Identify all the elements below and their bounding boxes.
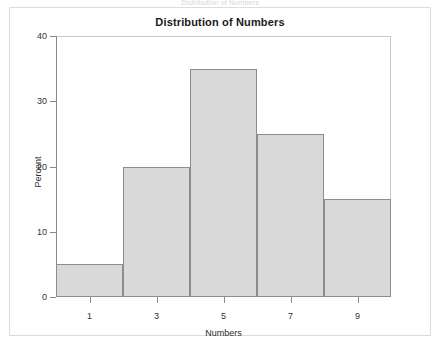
- y-tick-label-0: 0: [42, 292, 47, 302]
- x-tick-label-7: 7: [288, 311, 293, 321]
- chart-frame: Distribution of Numbers Percent 40 30 20…: [9, 7, 431, 336]
- x-axis-title: Numbers: [56, 328, 391, 338]
- y-tick-label-10: 10: [37, 227, 47, 237]
- y-axis-line: [56, 36, 57, 297]
- chart-title: Distribution of Numbers: [10, 16, 430, 28]
- bar-3: [123, 167, 190, 298]
- x-tick-label-5: 5: [221, 311, 226, 321]
- cut-off-header-text: Distribution of Numbers: [0, 0, 440, 6]
- x-tick-label-9: 9: [355, 311, 360, 321]
- x-tick-9: [358, 297, 359, 303]
- y-tick-40: [50, 36, 56, 37]
- x-tick-label-1: 1: [87, 311, 92, 321]
- bar-9: [324, 199, 391, 297]
- y-tick-10: [50, 232, 56, 233]
- y-tick-label-30: 30: [37, 96, 47, 106]
- x-tick-3: [157, 297, 158, 303]
- x-tick-label-3: 3: [154, 311, 159, 321]
- x-tick-7: [291, 297, 292, 303]
- y-tick-30: [50, 101, 56, 102]
- y-tick-label-40: 40: [37, 31, 47, 41]
- bar-5: [190, 69, 257, 297]
- y-tick-label-20: 20: [37, 162, 47, 172]
- bar-1: [56, 264, 123, 297]
- x-tick-1: [90, 297, 91, 303]
- bar-7: [257, 134, 324, 297]
- plot-area: 40 30 20 10 0 1 3 5 7: [56, 36, 391, 297]
- y-tick-0: [50, 297, 56, 298]
- x-tick-5: [224, 297, 225, 303]
- y-tick-20: [50, 167, 56, 168]
